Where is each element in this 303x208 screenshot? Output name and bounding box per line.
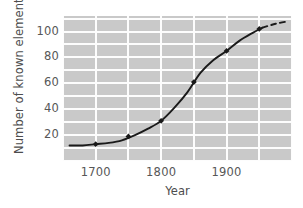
x-axis-tick-label: 1800 xyxy=(146,166,176,179)
y-axis-tick-label: 100 xyxy=(25,26,59,37)
data-series-layer xyxy=(63,16,292,161)
chart-figure: Number of known elements 20406080100 170… xyxy=(0,0,303,208)
series-line-extrapolation xyxy=(263,21,289,27)
x-axis-tick-label: 1700 xyxy=(81,166,111,179)
y-axis-tick-label: 80 xyxy=(25,51,59,62)
plot-area xyxy=(63,16,292,161)
x-axis-title: Year xyxy=(63,184,292,198)
y-axis-tick-label: 60 xyxy=(25,77,59,88)
y-axis-tick-label: 20 xyxy=(25,129,59,140)
y-axis-tick-label: 40 xyxy=(25,103,59,114)
y-axis-tick-labels: 20406080100 xyxy=(23,16,59,161)
data-point-marker xyxy=(93,141,99,147)
series-line xyxy=(70,28,263,146)
x-axis-tick-labels: 170018001900 xyxy=(63,166,292,182)
x-axis-tick-label: 1900 xyxy=(212,166,242,179)
